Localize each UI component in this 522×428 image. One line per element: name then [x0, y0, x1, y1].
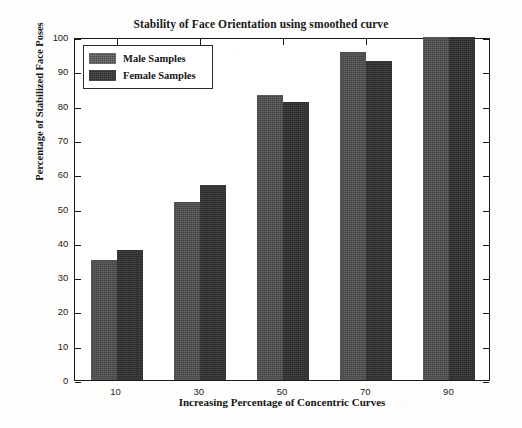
bar-female [366, 61, 392, 380]
bar-group [91, 39, 143, 380]
y-tick-label: 30 [34, 272, 68, 283]
y-axis-title: Percentage of Stabilized Face Poses [34, 0, 45, 227]
chart-legend: Male Samples Female Samples [83, 45, 213, 89]
bar-male [423, 37, 449, 380]
bar-male [340, 52, 366, 380]
chart-title: Stability of Face Orientation using smoo… [0, 18, 522, 30]
y-tick-label: 10 [34, 341, 68, 352]
bar-group [423, 39, 475, 380]
bar-group [257, 39, 309, 380]
legend-swatch-female-icon [89, 70, 116, 81]
y-tick-label: 0 [34, 375, 68, 386]
bar-female [117, 250, 143, 380]
bar-group [340, 39, 392, 380]
legend-label-female: Female Samples [123, 70, 196, 81]
bar-male [174, 202, 200, 380]
legend-swatch-male-icon [89, 53, 116, 64]
y-tick-label: 40 [34, 238, 68, 249]
x-axis-title: Increasing Percentage of Concentric Curv… [74, 396, 490, 408]
legend-label-male: Male Samples [123, 53, 186, 64]
legend-item-male: Male Samples [89, 50, 207, 67]
y-tick [75, 382, 81, 383]
bars-layer [75, 39, 489, 380]
figure-canvas: Stability of Face Orientation using smoo… [0, 0, 522, 428]
plot-area: Male Samples Female Samples [74, 38, 490, 381]
bar-female [449, 37, 475, 380]
y-tick-label: 20 [34, 306, 68, 317]
bar-male [257, 95, 283, 380]
legend-item-female: Female Samples [89, 67, 207, 84]
bar-female [200, 185, 226, 381]
bar-male [91, 260, 117, 380]
y-tick-right [483, 382, 489, 383]
bar-group [174, 39, 226, 380]
bar-female [283, 102, 309, 380]
